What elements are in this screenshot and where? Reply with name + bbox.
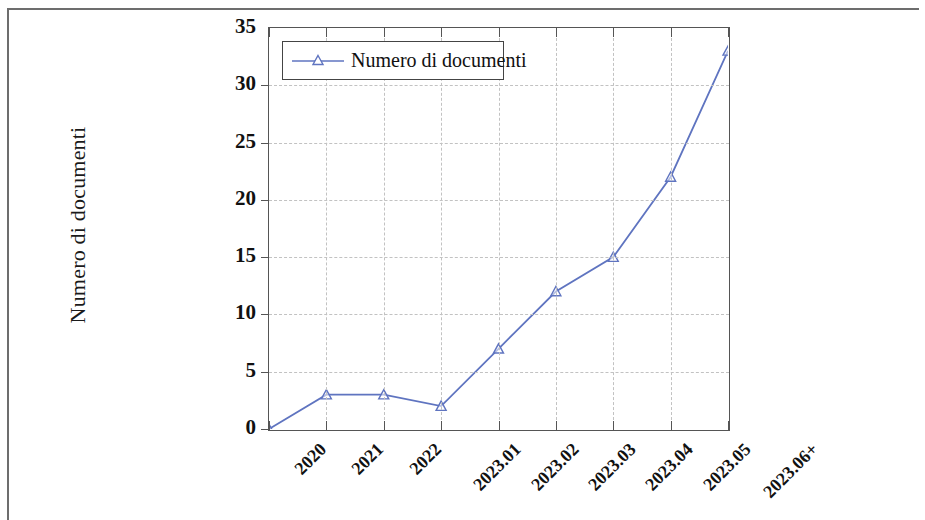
x-axis-tick-top [441,28,442,37]
y-axis-tick-label: 35 [214,16,256,37]
y-axis-tick-label: 15 [214,245,256,266]
x-axis-tick-bottom [556,421,557,430]
x-axis-tick-label: 2023.01 [469,439,525,495]
plot-area [268,27,730,431]
y-axis-tick-label: 20 [214,188,256,209]
x-axis-tick-bottom [326,421,327,430]
x-axis-tick-label: 2023.02 [527,439,583,495]
y-axis-tick [261,85,269,86]
x-axis-tick-label: 2023.04 [641,439,697,495]
x-axis-tick-label: 2023.03 [584,439,640,495]
data-point-marker [723,46,728,55]
gridline-vertical [384,28,385,430]
x-axis-tick-bottom [613,421,614,430]
x-axis-tick-top [269,28,270,37]
y-axis-tick [261,314,269,315]
legend-label: Numero di documenti [351,49,527,72]
x-axis-tick-bottom [499,421,500,430]
x-axis-tick-bottom [441,421,442,430]
x-axis-tick-top [326,28,327,37]
x-axis-tick-label: 2021 [348,439,388,479]
gridline-vertical [613,28,614,430]
gridline-vertical [441,28,442,430]
y-axis-tick [261,429,269,430]
chart-legend: Numero di documenti [282,41,504,80]
y-axis-tick-labels: 05101520253035 [212,27,256,431]
x-axis-tick-top [556,28,557,37]
y-axis-tick-label: 10 [214,302,256,323]
x-axis-tick-top [728,28,729,37]
x-axis-tick-bottom [671,421,672,430]
gridline-vertical [671,28,672,430]
x-axis-tick-bottom [384,421,385,430]
x-axis-tick-label: 2023.06+ [759,439,822,502]
gridline-vertical [499,28,500,430]
y-axis-tick [261,257,269,258]
legend-marker-icon [291,52,345,70]
x-axis-tick-bottom [269,421,270,430]
x-axis-tick-top [671,28,672,37]
x-axis-tick-label: 2023.05 [699,439,755,495]
y-axis-tick-label: 30 [214,73,256,94]
x-axis-tick-top [384,28,385,37]
y-axis-tick-label: 0 [214,417,256,438]
x-axis-tick-label: 2020 [291,439,331,479]
gridline-vertical [326,28,327,430]
x-axis-tick-bottom [728,421,729,430]
x-axis-tick-top [499,28,500,37]
y-axis-tick-label: 5 [214,360,256,381]
y-axis-tick [261,143,269,144]
y-axis-tick [261,200,269,201]
x-axis-tick-top [613,28,614,37]
y-axis-title: Numero di documenti [65,70,91,380]
y-axis-tick-label: 25 [214,131,256,152]
x-axis-tick-labels: 2020202120222023.012023.022023.032023.04… [268,431,730,518]
gridline-vertical [556,28,557,430]
y-axis-tick [261,372,269,373]
x-axis-tick-label: 2022 [405,439,445,479]
